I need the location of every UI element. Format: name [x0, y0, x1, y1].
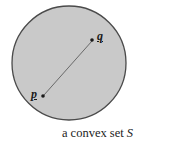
figure-caption: a convex set S: [0, 126, 195, 140]
caption-prefix-text: a convex set: [62, 126, 124, 140]
point-label-q: q: [97, 30, 103, 42]
convex-set-disc: [12, 6, 126, 120]
point-dot-p: [41, 94, 45, 98]
point-dot-q: [90, 38, 94, 42]
figure-canvas: [0, 0, 195, 145]
caption-set-name: S: [127, 126, 133, 140]
convex-set-figure: p q a convex set S: [0, 0, 195, 145]
point-label-p: p: [31, 88, 37, 100]
